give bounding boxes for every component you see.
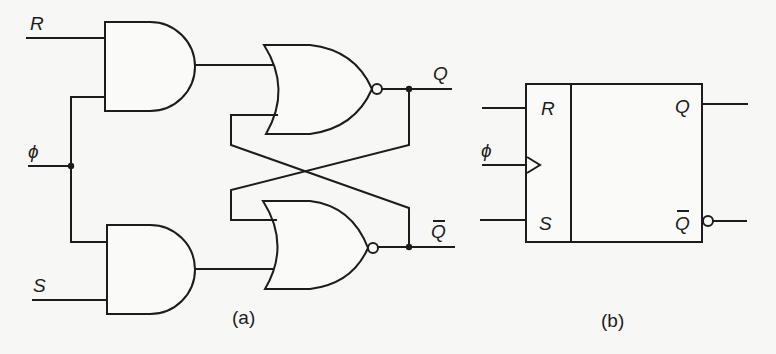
- clock-distribution-wire: [71, 97, 107, 242]
- input-s-label: S: [33, 275, 46, 296]
- caption-a: (a): [232, 307, 255, 328]
- nor-gate-bottom: [263, 201, 368, 289]
- block-output-qbar-label: Q: [675, 213, 690, 234]
- block-qbar-inversion-bubble: [703, 216, 713, 226]
- caption-b: (b): [601, 310, 624, 331]
- and-gate-top: [105, 22, 195, 111]
- clock-input-label: ϕ: [28, 141, 39, 162]
- nor-bottom-inversion-bubble: [368, 243, 378, 253]
- input-r-label: R: [30, 13, 44, 34]
- nor-top-inversion-bubble: [372, 84, 382, 94]
- nor-gate-top: [264, 45, 372, 134]
- block-input-r-label: R: [541, 98, 555, 119]
- block-output-q-label: Q: [675, 96, 690, 117]
- panel-b-symbol: R ϕ S Q Q (b): [480, 84, 748, 331]
- output-qbar-label: Q: [431, 221, 446, 242]
- output-q-label: Q: [433, 63, 448, 84]
- block-clock-label: ϕ: [481, 140, 492, 161]
- block-input-s-label: S: [539, 213, 552, 234]
- and-gate-bottom: [107, 225, 195, 314]
- clock-junction-dot: [68, 163, 74, 169]
- panel-a-circuit: R ϕ S Q Q (a): [26, 13, 455, 328]
- rs-flipflop-diagram: R ϕ S Q Q (a): [0, 0, 776, 354]
